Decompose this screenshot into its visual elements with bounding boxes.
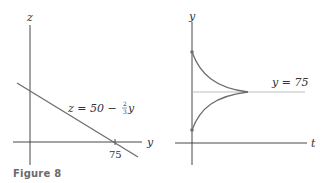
t-axis-label: t <box>311 137 316 150</box>
figure-caption: Figure 8 <box>13 168 61 179</box>
lower-solution-curve <box>192 92 248 130</box>
figure-canvas: z y 75 z = 50 − 2 3 y y t y = 75 <box>0 0 327 183</box>
upper-initial-point <box>190 50 194 54</box>
line-equation-label: z = 50 − 2 3 y <box>67 100 135 115</box>
equation-prefix: z = 50 − <box>67 102 117 115</box>
z-axis-label: z <box>26 11 33 24</box>
left-plot: z y 75 z = 50 − 2 3 y <box>13 11 154 165</box>
equation-frac-num: 2 <box>123 100 127 107</box>
upper-solution-curve <box>192 52 248 92</box>
equation-suffix: y <box>127 102 135 115</box>
right-plot: y t y = 75 <box>175 10 316 165</box>
lower-initial-point <box>190 128 194 132</box>
linear-relation-line <box>17 83 138 157</box>
y-axis-label-right: y <box>188 10 196 23</box>
equilibrium-label: y = 75 <box>271 76 308 89</box>
equation-frac-den: 3 <box>123 108 127 115</box>
y-axis-label: y <box>146 136 154 149</box>
tick-label-75: 75 <box>109 149 122 160</box>
